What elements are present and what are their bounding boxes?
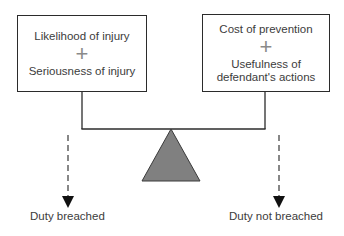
balance-diagram: Likelihood of injury + Seriousness of in… — [0, 0, 344, 236]
seriousness-of-injury-label: Seriousness of injury — [29, 65, 136, 78]
usefulness-of-label: Usefulness of — [231, 58, 301, 71]
outcome-duty-not-breached: Duty not breached — [229, 210, 323, 222]
fulcrum-triangle-icon — [142, 129, 200, 181]
outcome-duty-breached: Duty breached — [30, 210, 105, 222]
left-factors-box: Likelihood of injury + Seriousness of in… — [17, 15, 147, 92]
right-factors-box: Cost of prevention + Usefulness of defen… — [202, 14, 330, 92]
defendants-actions-label: defendant's actions — [217, 71, 316, 84]
plus-icon: + — [76, 44, 89, 64]
left-arrowhead-icon — [62, 196, 74, 208]
right-arrowhead-icon — [273, 196, 285, 208]
plus-icon: + — [260, 37, 273, 57]
